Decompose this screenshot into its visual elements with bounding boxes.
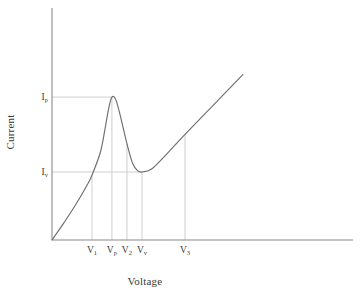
y-tick-label-Ip: Ip xyxy=(30,92,48,102)
chart-figure: V1VpV2VvV3 IpIv Current Voltage xyxy=(0,0,360,298)
x-axis-title: Voltage xyxy=(104,275,186,287)
x-tick-label-V2: V2 xyxy=(122,245,132,255)
y-tick-label-Iv: Iv xyxy=(30,167,48,177)
x-tick-label-Vv: Vv xyxy=(137,245,147,255)
x-tick-label-V3: V3 xyxy=(180,245,190,255)
y-axis-title: Current xyxy=(4,100,16,164)
x-tick-label-V1: V1 xyxy=(87,245,97,255)
x-tick-label-Vp: Vp xyxy=(107,245,117,255)
